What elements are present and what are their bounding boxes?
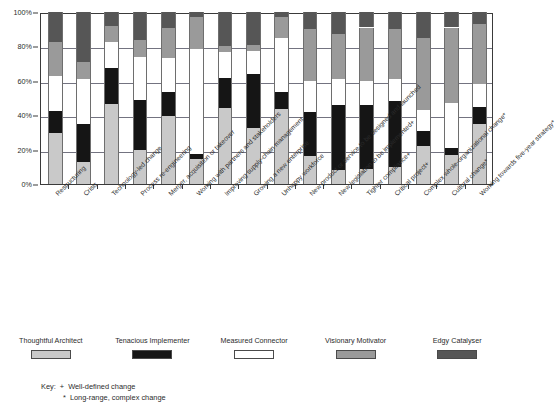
bar-segment: [303, 29, 318, 81]
bar-segment: [303, 12, 318, 29]
y-tick-mark: [33, 13, 38, 14]
x-axis-category-labels: RestructuringCrisisTechnology-led change…: [0, 190, 508, 310]
bar-segment: [416, 131, 431, 146]
bar-segment: [133, 100, 148, 150]
bar-segment: [472, 12, 487, 24]
bar-segment: [444, 12, 459, 27]
bar-segment: [161, 92, 176, 116]
bar-segment: [416, 12, 431, 38]
bar-segment: [388, 29, 403, 79]
bar-segment: [444, 103, 459, 148]
key-symbol: +: [60, 382, 64, 391]
legend-label: Tenacious Implementer: [102, 336, 204, 345]
bar-segment: [133, 12, 148, 40]
legend-swatch: [31, 350, 71, 359]
bar-segment: [76, 124, 91, 162]
y-axis: 0%20%40%60%80%100%: [0, 13, 38, 185]
bar-segment: [161, 58, 176, 92]
key-title: Key:: [41, 382, 56, 391]
bar-segment: [359, 28, 374, 81]
chart-legend: Thoughtful ArchitectTenacious Implemente…: [0, 336, 508, 372]
bar-column: [104, 14, 119, 184]
key-symbol: *: [63, 393, 66, 402]
y-tick-label: 20%: [18, 147, 32, 154]
y-tick-label: 0%: [22, 181, 32, 188]
key-entry: Key:+Well-defined change: [41, 381, 381, 392]
legend-swatch: [336, 350, 376, 359]
bar-segment: [104, 68, 119, 105]
bar-segment: [246, 12, 261, 45]
bar-segment: [104, 42, 119, 68]
bar-segment: [444, 148, 459, 155]
legend-item[interactable]: Tenacious Implementer: [102, 336, 204, 359]
bar-segment: [218, 78, 233, 107]
bar-segment: [388, 12, 403, 29]
bar-segment: [331, 34, 346, 79]
y-tick-label: 40%: [18, 113, 32, 120]
bar-segment: [416, 110, 431, 131]
legend-item[interactable]: Edgy Catalyser: [406, 336, 508, 359]
legend-item[interactable]: Visionary Motivator: [305, 336, 407, 359]
y-tick-label: 80%: [18, 44, 32, 51]
bar-segment: [104, 26, 119, 42]
legend-swatch: [132, 350, 172, 359]
bar-segment: [161, 12, 176, 28]
y-tick-label: 60%: [18, 78, 32, 85]
bar-segment: [161, 28, 176, 58]
bar-segment: [472, 84, 487, 106]
bar-segment: [274, 17, 289, 38]
key-entry: *Long-range, complex change: [41, 392, 381, 403]
bar-segment: [359, 81, 374, 105]
chart-key: Key:+Well-defined change*Long-range, com…: [41, 381, 381, 403]
y-tick-label: 100%: [14, 9, 32, 16]
bar-segment: [76, 79, 91, 124]
y-tick-mark: [33, 150, 38, 151]
bar-segment: [218, 46, 233, 52]
y-tick-mark: [33, 116, 38, 117]
y-tick-mark: [33, 185, 38, 186]
bar-segment: [104, 12, 119, 26]
bar-segment: [416, 38, 431, 110]
legend-item[interactable]: Thoughtful Architect: [0, 336, 102, 359]
bar-segment: [246, 51, 261, 75]
bar-column: [416, 14, 431, 184]
legend-label: Thoughtful Architect: [0, 336, 102, 345]
legend-swatch: [437, 350, 477, 359]
bar-segment: [48, 12, 63, 42]
bar-segment: [246, 45, 261, 51]
bar-segment: [218, 52, 233, 78]
bar-segment: [274, 92, 289, 109]
y-tick-mark: [33, 81, 38, 82]
y-tick-mark: [33, 47, 38, 48]
bar-segment: [274, 12, 289, 17]
legend-label: Measured Connector: [203, 336, 305, 345]
bar-segment: [331, 12, 346, 34]
legend-label: Visionary Motivator: [305, 336, 407, 345]
bar-segment: [48, 76, 63, 110]
bar-segment: [274, 38, 289, 92]
bar-segment: [133, 57, 148, 100]
bar-segment: [133, 40, 148, 57]
bar-segment: [218, 12, 233, 46]
bar-segment: [48, 133, 63, 184]
bar-segment: [48, 42, 63, 76]
bar-segment: [472, 24, 487, 84]
bar-segment: [189, 49, 204, 154]
bar-segment: [76, 62, 91, 79]
bar-segment: [303, 81, 318, 112]
bar-segment: [359, 12, 374, 27]
bar-segment: [444, 28, 459, 104]
bar-segment: [48, 111, 63, 133]
bar-segment: [104, 104, 119, 184]
bar-column: [76, 14, 91, 184]
bar-segment: [246, 74, 261, 127]
legend-label: Edgy Catalyser: [406, 336, 508, 345]
bar-segment: [189, 17, 204, 49]
legend-item[interactable]: Measured Connector: [203, 336, 305, 359]
bar-segment: [472, 107, 487, 124]
legend-swatch: [234, 350, 274, 359]
key-text: Long-range, complex change: [70, 393, 166, 402]
key-text: Well-defined change: [68, 382, 135, 391]
bar-column: [48, 14, 63, 184]
bar-segment: [189, 12, 204, 17]
